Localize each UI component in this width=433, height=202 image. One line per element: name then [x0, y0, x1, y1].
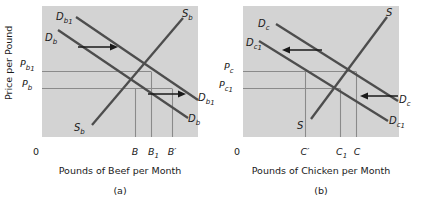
panel-a-origin-label: 0 [33, 146, 39, 157]
supply-demand-figure: Price per Pound 0 Pb1 Pb B B1 B′ Db1 Db … [0, 0, 433, 202]
panel-b-label-S-bottom: S [297, 120, 304, 131]
panel-a-tick-B1: B1 [148, 146, 159, 160]
panel-b-caption: (b) [314, 185, 327, 196]
panel-b-tick-Cprime: C′ [301, 146, 311, 157]
panel-a-x-axis-title: Pounds of Beef per Month [59, 165, 182, 176]
panel-b: 0 Pc Pc1 C′ C1 C Dc Dc1 Dc Dc1 S S Pound… [219, 6, 411, 196]
panel-a-tick-Bprime: B′ [168, 146, 178, 157]
panel-a: Price per Pound 0 Pb1 Pb B B1 B′ Db1 Db … [3, 6, 215, 196]
panel-b-label-Dc-lower: Dc [399, 94, 411, 108]
panel-b-label-S-top: S [386, 7, 393, 18]
panel-a-caption: (a) [113, 185, 126, 196]
svg-text:Pb1: Pb1 [20, 58, 35, 73]
panel-a-price-label-upper: Pb1 [20, 58, 35, 73]
panel-b-tick-C1: C1 [336, 146, 347, 160]
panel-b-origin-label: 0 [234, 146, 240, 157]
panel-b-x-axis-title: Pounds of Chicken per Month [252, 165, 391, 176]
panel-a-price-label-lower: Pb [22, 78, 33, 92]
panel-b-price-label-upper: Pc [224, 61, 234, 75]
panel-b-tick-C: C [354, 146, 361, 157]
panel-b-price-label-lower: Pc1 [219, 79, 233, 94]
panel-a-tick-B: B [132, 146, 139, 157]
panel-a-y-axis-title: Price per Pound [3, 26, 14, 100]
svg-text:Pb: Pb [22, 78, 33, 92]
panel-a-label-Db1-lower: Db1 [198, 92, 215, 107]
figure-svg: Price per Pound 0 Pb1 Pb B B1 B′ Db1 Db … [0, 0, 433, 202]
